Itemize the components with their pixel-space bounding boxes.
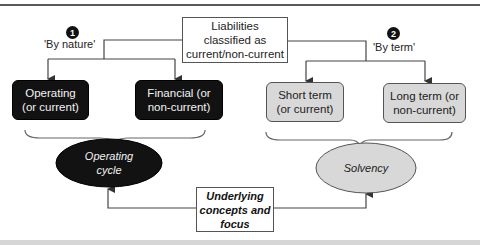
concept-operating-line-2: cycle — [60, 163, 158, 177]
bottom-band — [0, 240, 480, 245]
node-long-term: Long term (or non-current) — [383, 83, 466, 123]
underlying-line-3: focus — [200, 217, 271, 231]
diagram-frame: Liabilities classified as current/non-cu… — [0, 0, 480, 245]
node-long-term-line-2: non-current) — [390, 103, 459, 117]
concept-operating-line-1: Operating — [60, 149, 158, 163]
root-line-1: Liabilities — [186, 19, 284, 33]
node-operating-line-2: (or current) — [22, 100, 79, 114]
node-short-term-line-2: (or current) — [277, 102, 334, 116]
node-long-term-line-1: Long term (or — [390, 89, 459, 103]
root-line-2: classified as — [186, 33, 284, 47]
root-line-3: current/non-current — [186, 47, 284, 61]
node-short-term-line-1: Short term — [277, 88, 334, 102]
concept-solvency-line-1: Solvency — [318, 161, 414, 175]
node-financial-line-2: non-current) — [147, 100, 210, 114]
branch-label-by-term: 'By term' — [373, 41, 415, 53]
node-operating-line-1: Operating — [22, 86, 79, 100]
branch-label-by-nature: 'By nature' — [44, 38, 95, 50]
node-financial: Financial (or non-current) — [135, 80, 223, 120]
node-financial-line-1: Financial (or — [147, 86, 210, 100]
concept-operating-cycle: Operating cycle — [60, 149, 158, 177]
underlying-line-2: concepts and — [200, 203, 271, 217]
node-operating: Operating (or current) — [12, 80, 89, 120]
node-short-term: Short term (or current) — [266, 82, 344, 122]
concept-solvency: Solvency — [318, 161, 414, 175]
root-node-liabilities: Liabilities classified as current/non-cu… — [182, 17, 288, 63]
node-underlying-concepts: Underlying concepts and focus — [196, 187, 274, 232]
badge-2-icon: 2 — [387, 27, 400, 40]
underlying-line-1: Underlying — [200, 189, 271, 203]
